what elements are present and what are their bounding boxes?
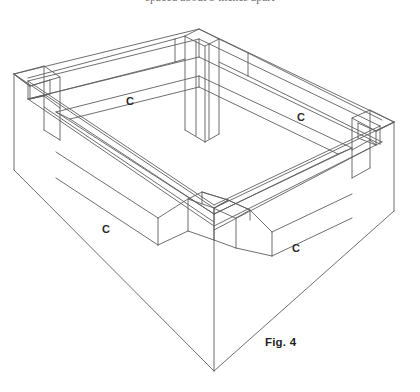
figure-caption: Fig. 4 bbox=[265, 337, 296, 349]
inner-rim-back-right bbox=[199, 39, 380, 126]
post-back-bottom-right bbox=[205, 134, 219, 142]
front-wall-rim-right-bottom bbox=[272, 218, 352, 256]
post-front-notch-left-floor bbox=[158, 231, 188, 245]
figure-page: spaced about 3 inches apart bbox=[0, 0, 420, 392]
ledge-riser-left bbox=[56, 112, 70, 119]
inner-rim-right-front bbox=[214, 126, 380, 205]
corner-post-left bbox=[14, 66, 60, 140]
post-back-wall-left-top bbox=[28, 39, 175, 78]
inner-rim-left-back bbox=[28, 39, 199, 81]
ledge-front-left bbox=[56, 112, 214, 214]
post-left-notch-top bbox=[30, 80, 50, 86]
post-front-rib-top bbox=[202, 192, 228, 200]
left-wall-step-bottom bbox=[44, 107, 214, 222]
post-right-notch-inner bbox=[358, 138, 376, 145]
post-front-bottom-right bbox=[214, 240, 236, 248]
ledge-riser-right bbox=[338, 148, 352, 154]
post-front-bottom-left bbox=[188, 231, 214, 240]
corner-post-label-back-right: C bbox=[297, 112, 305, 123]
inner-rim-front-left bbox=[28, 81, 214, 205]
left-wall-step-top bbox=[28, 99, 214, 226]
post-front-notch-right-rim bbox=[250, 210, 272, 232]
post-front-notch-right-floor bbox=[236, 248, 272, 256]
post-right-notch-top bbox=[358, 123, 376, 131]
post-left-notch-diagonal bbox=[14, 74, 30, 86]
corner-post-label-front-right: C bbox=[292, 243, 300, 254]
front-wall-rim-left-top bbox=[56, 152, 158, 218]
post-back-wall-right-top bbox=[248, 53, 382, 120]
outer-top-rim-left-back bbox=[14, 29, 199, 74]
tray-floor-back-right bbox=[199, 87, 338, 154]
right-wall-interior-step bbox=[214, 142, 382, 230]
post-left-bottom-front bbox=[44, 96, 60, 108]
patent-figure-drawing bbox=[0, 0, 420, 392]
corner-post-label-back-left: C bbox=[126, 96, 134, 107]
corner-post-front bbox=[56, 152, 352, 256]
corner-post-back bbox=[28, 29, 382, 142]
corner-post-label-front-left: C bbox=[102, 224, 110, 235]
front-wall-rim-right-top bbox=[272, 194, 352, 232]
right-wall-step-bottom bbox=[214, 148, 370, 230]
corner-post-right bbox=[352, 110, 394, 178]
tray-outer-body bbox=[14, 29, 394, 371]
post-back-wing-left-top bbox=[175, 36, 185, 39]
tray-inner-cavity bbox=[28, 39, 380, 214]
post-right-skirt-bottom bbox=[352, 168, 370, 178]
post-back-bottom-left bbox=[185, 130, 205, 142]
left-wall-interior-step bbox=[28, 99, 214, 226]
post-left-skirt-bottom bbox=[44, 130, 60, 140]
ledge-back-right bbox=[199, 76, 352, 148]
outer-bottom-left bbox=[14, 170, 214, 371]
outer-top-rim-back-right bbox=[199, 29, 394, 122]
outer-bottom-right bbox=[214, 211, 394, 371]
